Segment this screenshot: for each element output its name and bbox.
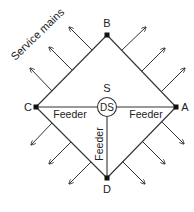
node-d-label: D bbox=[103, 183, 111, 195]
node-b-marker bbox=[105, 33, 110, 38]
feeder-right-label: Feeder bbox=[129, 108, 163, 120]
feeder-down-label: Feeder bbox=[93, 127, 105, 161]
service-mains-label: Service mains bbox=[8, 5, 66, 62]
node-a-label: A bbox=[181, 101, 189, 113]
substation-top-label: S bbox=[103, 82, 110, 94]
feeder-left-label: Feeder bbox=[53, 108, 87, 120]
substation-inner-label: DS bbox=[100, 102, 114, 113]
node-c-marker bbox=[34, 105, 39, 110]
node-a-marker bbox=[174, 105, 179, 110]
ring-main-diagram: B C A D S DS Feeder Feeder Feeder Servic… bbox=[0, 0, 194, 212]
node-b-label: B bbox=[103, 17, 110, 29]
node-d-marker bbox=[105, 176, 110, 181]
node-c-label: C bbox=[24, 101, 32, 113]
